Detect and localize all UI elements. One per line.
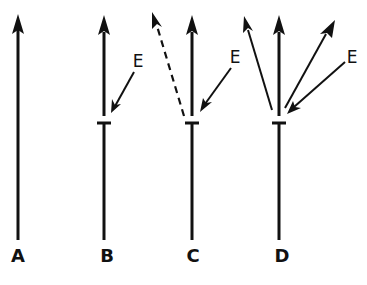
diagram-canvas: A E B E C E D [0,0,367,285]
right-branch-arrowhead-icon [320,20,335,38]
event-label-e: E [347,47,358,67]
event-arrow-line [205,68,231,104]
panel-b: E B [97,15,143,266]
event-label-e: E [133,51,144,71]
event-arrowhead-icon [200,98,212,112]
event-arrow-line [114,72,134,108]
dashed-branch-line [157,26,184,116]
dashed-branch-arrowhead-icon [152,12,162,29]
panel-c: E C [152,12,240,266]
event-label-e: E [230,47,241,67]
panel-label-b: B [100,245,114,266]
panel-d: E D [243,15,357,266]
panel-a: A [11,14,25,266]
panel-label-a: A [11,245,25,266]
event-arrowhead-icon [111,99,121,113]
panel-label-d: D [275,245,290,266]
panel-label-c: C [186,245,199,266]
left-branch-line [248,30,272,110]
event-arrow-line [294,62,345,107]
